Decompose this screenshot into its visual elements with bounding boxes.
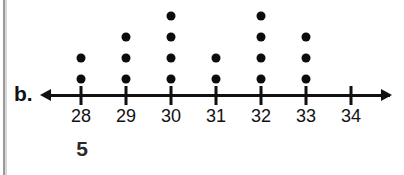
worksheet-page: b. 28293031323334 5	[0, 0, 404, 175]
axis-tick-label-28: 28	[58, 107, 104, 125]
data-dot	[257, 54, 266, 63]
axis-tick-33	[305, 86, 308, 105]
data-dot	[122, 54, 131, 63]
number-line-axis	[50, 94, 390, 97]
axis-arrow-right-icon	[381, 89, 392, 101]
axis-tick-label-32: 32	[238, 107, 284, 125]
axis-arrow-left-icon	[40, 89, 51, 101]
data-dot	[167, 12, 176, 21]
axis-tick-34	[350, 86, 353, 105]
data-dot	[257, 33, 266, 42]
axis-tick-31	[215, 86, 218, 105]
axis-tick-label-31: 31	[193, 107, 239, 125]
data-dot	[302, 75, 311, 84]
data-dot	[77, 54, 86, 63]
data-dot	[122, 33, 131, 42]
axis-tick-29	[125, 86, 128, 105]
axis-tick-label-29: 29	[103, 107, 149, 125]
data-dot	[212, 54, 221, 63]
data-dot	[122, 75, 131, 84]
axis-tick-32	[260, 86, 263, 105]
data-dot	[167, 54, 176, 63]
data-dot	[212, 75, 221, 84]
axis-tick-28	[80, 86, 83, 105]
data-dot	[167, 75, 176, 84]
below-axis-number: 5	[62, 138, 102, 159]
axis-tick-label-34: 34	[328, 107, 374, 125]
axis-tick-30	[170, 86, 173, 105]
data-dot	[77, 75, 86, 84]
data-dot	[257, 12, 266, 21]
axis-tick-label-30: 30	[148, 107, 194, 125]
axis-tick-label-33: 33	[283, 107, 329, 125]
dot-plot: 28293031323334	[0, 0, 404, 175]
data-dot	[167, 33, 176, 42]
data-dot	[257, 75, 266, 84]
data-dot	[302, 54, 311, 63]
data-dot	[302, 33, 311, 42]
